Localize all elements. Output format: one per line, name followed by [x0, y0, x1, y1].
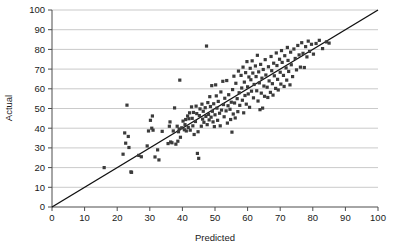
data-point — [170, 141, 173, 144]
data-point — [200, 125, 203, 128]
data-point — [282, 74, 285, 77]
data-point — [270, 69, 273, 72]
y-tick-label-90: 90 — [34, 24, 45, 35]
data-point — [269, 91, 272, 94]
data-point — [310, 43, 313, 46]
data-point — [172, 129, 175, 132]
data-point — [247, 92, 250, 95]
data-point — [214, 83, 217, 86]
data-point — [307, 40, 310, 43]
data-point — [262, 68, 265, 71]
data-point — [220, 108, 223, 111]
data-point — [230, 101, 233, 104]
data-point — [226, 121, 229, 124]
data-point — [264, 73, 267, 76]
data-point — [257, 70, 260, 73]
data-point — [321, 47, 324, 50]
data-point — [278, 58, 281, 61]
data-point — [261, 107, 264, 110]
y-tick-label-30: 30 — [34, 142, 45, 153]
data-point — [211, 110, 214, 113]
data-point — [210, 84, 213, 87]
data-point — [232, 75, 235, 78]
data-point — [245, 60, 248, 63]
data-point — [237, 69, 240, 72]
data-point — [168, 125, 171, 128]
data-point — [277, 88, 280, 91]
x-axis-title: Predicted — [195, 232, 235, 243]
data-point — [230, 131, 233, 134]
data-point — [187, 126, 190, 129]
data-point-markers — [103, 39, 331, 174]
data-point — [260, 77, 263, 80]
data-point — [299, 66, 302, 69]
data-point — [217, 100, 220, 103]
data-point — [260, 92, 263, 95]
x-tick-label-80: 80 — [308, 212, 319, 223]
data-point — [176, 140, 179, 143]
y-tick-label-40: 40 — [34, 123, 45, 134]
data-point — [254, 75, 257, 78]
data-point — [219, 90, 222, 93]
y-tick-label-0: 0 — [40, 201, 45, 212]
data-point — [264, 58, 267, 61]
data-point — [223, 115, 226, 118]
data-point — [209, 105, 212, 108]
data-point — [285, 79, 288, 82]
data-point — [276, 78, 279, 81]
y-axis-ticks — [48, 10, 52, 207]
data-point — [272, 62, 275, 65]
data-point — [206, 123, 209, 126]
data-point — [179, 136, 182, 139]
data-point — [189, 129, 192, 132]
data-point — [225, 79, 228, 82]
data-point — [258, 81, 261, 84]
data-point — [304, 45, 307, 48]
data-point — [209, 116, 212, 119]
x-tick-label-0: 0 — [49, 212, 54, 223]
x-tick-label-50: 50 — [210, 212, 221, 223]
data-point — [151, 129, 154, 132]
y-tick-label-60: 60 — [34, 83, 45, 94]
data-point — [266, 86, 269, 89]
data-point — [247, 75, 250, 78]
data-point — [130, 171, 133, 174]
data-point — [206, 101, 209, 104]
data-point — [194, 105, 197, 108]
data-point — [198, 107, 201, 110]
chart-canvas: 0102030405060708090100 01020304050607080… — [0, 0, 395, 247]
y-tick-label-50: 50 — [34, 103, 45, 114]
data-point — [259, 63, 262, 66]
data-point — [288, 83, 291, 86]
data-point — [300, 41, 303, 44]
data-point — [221, 80, 224, 83]
data-point — [240, 86, 243, 89]
data-point — [256, 99, 259, 102]
data-point — [218, 112, 221, 115]
data-point — [176, 125, 179, 128]
data-point — [191, 124, 194, 127]
y-axis-tick-labels: 0102030405060708090100 — [29, 4, 45, 212]
y-tick-label-10: 10 — [34, 182, 45, 193]
x-axis-ticks — [52, 207, 378, 211]
y-tick-label-100: 100 — [29, 4, 45, 15]
data-point — [241, 99, 244, 102]
data-point — [250, 90, 253, 93]
data-point — [127, 135, 130, 138]
data-point — [232, 112, 235, 115]
data-point — [215, 107, 218, 110]
data-point — [208, 118, 211, 121]
data-point — [249, 67, 252, 70]
data-point — [228, 108, 231, 111]
data-point — [287, 70, 290, 73]
data-point — [168, 120, 171, 123]
data-point — [191, 117, 194, 120]
data-point — [188, 111, 191, 114]
x-tick-label-100: 100 — [370, 212, 386, 223]
data-point — [233, 101, 236, 104]
data-point — [251, 71, 254, 74]
data-point — [239, 74, 242, 77]
data-point — [140, 155, 143, 158]
data-point — [238, 91, 241, 94]
data-point — [234, 82, 237, 85]
